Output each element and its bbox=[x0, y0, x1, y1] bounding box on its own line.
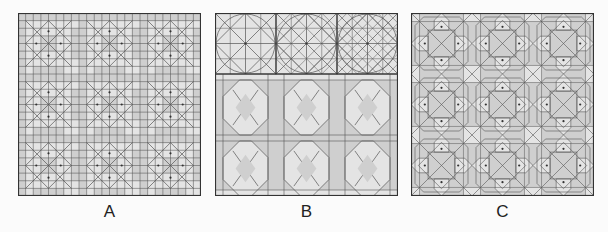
pattern-c-graphic bbox=[411, 13, 594, 196]
panel-b-label: B bbox=[215, 202, 398, 222]
pattern-a-graphic bbox=[18, 13, 201, 196]
panel-c-pattern bbox=[411, 13, 594, 196]
panel-a-pattern bbox=[18, 13, 201, 196]
panel-b-pattern bbox=[215, 13, 398, 196]
panel-a-label: A bbox=[18, 202, 201, 222]
panel-c-label: C bbox=[411, 202, 594, 222]
pattern-b-graphic bbox=[215, 13, 398, 196]
